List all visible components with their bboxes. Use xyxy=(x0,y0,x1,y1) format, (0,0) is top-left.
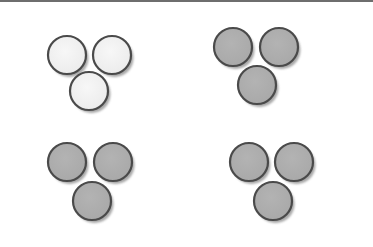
group-bottom-right xyxy=(230,143,316,223)
light-circle-1 xyxy=(48,36,86,74)
dark-circle-2 xyxy=(94,143,132,181)
groups-layer xyxy=(48,28,316,223)
dark-circle-2 xyxy=(275,143,313,181)
dark-circle-1 xyxy=(214,28,252,66)
dark-circle-3 xyxy=(238,66,276,104)
dark-circle-1 xyxy=(230,143,268,181)
dark-circle-2 xyxy=(260,28,298,66)
dark-circle-3 xyxy=(254,182,292,220)
dark-circle-3 xyxy=(73,182,111,220)
light-circle-2 xyxy=(93,36,131,74)
light-circle-3 xyxy=(70,72,108,110)
circle-groups-diagram xyxy=(0,0,373,247)
group-top-right xyxy=(214,28,301,107)
dark-circle-1 xyxy=(48,143,86,181)
group-bottom-left xyxy=(48,143,135,223)
group-top-left xyxy=(48,36,134,113)
